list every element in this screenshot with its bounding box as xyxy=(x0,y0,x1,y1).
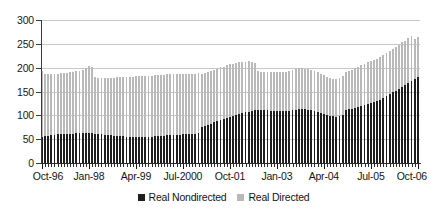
segment-real-nondirected xyxy=(245,112,247,163)
segment-real-directed xyxy=(241,62,243,113)
bar-May-06 xyxy=(401,42,403,163)
segment-real-nondirected xyxy=(166,135,168,163)
bar-May-01 xyxy=(213,70,215,163)
bar-Dec-97 xyxy=(85,68,87,163)
segment-real-nondirected xyxy=(379,100,381,163)
bar-Jan-98 xyxy=(88,66,90,163)
x-tick-Nov-05 xyxy=(383,164,384,167)
segment-real-nondirected xyxy=(342,115,344,163)
segment-real-directed xyxy=(263,72,265,110)
x-axis-label-Jul-2000: Jul-2000 xyxy=(164,170,203,182)
segment-real-nondirected xyxy=(376,101,378,163)
segment-real-directed xyxy=(69,72,71,133)
segment-real-nondirected xyxy=(216,121,218,163)
x-tick-Dec-97 xyxy=(86,164,87,167)
x-tick-Oct-97 xyxy=(80,164,81,167)
bar-May-03 xyxy=(288,71,290,163)
segment-real-nondirected xyxy=(248,112,250,163)
bar-Jul-03 xyxy=(295,69,297,163)
bar-Nov-99 xyxy=(157,75,159,163)
x-tick-Jul-01 xyxy=(220,164,221,167)
segment-real-nondirected xyxy=(389,94,391,163)
segment-real-directed xyxy=(216,69,218,121)
x-tick-Dec-02 xyxy=(274,164,275,167)
segment-real-directed xyxy=(395,47,397,91)
x-tick-May-03 xyxy=(289,164,290,167)
segment-real-nondirected xyxy=(382,98,384,163)
bar-Jan-04 xyxy=(314,71,316,163)
bar-May-97 xyxy=(63,73,65,163)
bar-Sep-02 xyxy=(263,72,265,163)
segment-real-nondirected xyxy=(82,133,84,163)
bar-Jan-01 xyxy=(201,74,203,163)
segment-real-nondirected xyxy=(226,118,228,163)
segment-real-nondirected xyxy=(185,134,187,163)
segment-real-directed xyxy=(141,76,143,137)
segment-real-nondirected xyxy=(279,111,281,163)
segment-real-directed xyxy=(182,74,184,134)
bar-Jul-04 xyxy=(332,79,334,163)
segment-real-nondirected xyxy=(270,111,272,163)
segment-real-nondirected xyxy=(69,134,71,163)
x-tick-Mar-04 xyxy=(321,164,322,167)
bar-Jun-06 xyxy=(404,41,406,163)
segment-real-nondirected xyxy=(417,77,419,163)
bar-Nov-96 xyxy=(44,74,46,163)
segment-real-directed xyxy=(54,74,56,135)
x-tick-Mar-97 xyxy=(58,164,59,167)
x-tick-May-97 xyxy=(64,164,65,167)
segment-real-nondirected xyxy=(176,135,178,163)
segment-real-nondirected xyxy=(273,111,275,163)
bar-Jan-99 xyxy=(126,77,128,163)
bar-Jul-01 xyxy=(220,67,222,163)
segment-real-directed xyxy=(176,74,178,135)
segment-real-directed xyxy=(323,75,325,114)
x-tick-Mar-03 xyxy=(283,164,284,167)
segment-real-directed xyxy=(329,78,331,116)
bar-Jun-01 xyxy=(216,69,218,163)
segment-real-directed xyxy=(88,66,90,134)
segment-real-nondirected xyxy=(79,133,81,163)
segment-real-nondirected xyxy=(254,110,256,163)
bar-Apr-04 xyxy=(323,75,325,163)
bars-layer xyxy=(41,20,420,163)
segment-real-directed xyxy=(407,38,409,83)
x-tick-Jan-02 xyxy=(239,164,240,167)
segment-real-directed xyxy=(44,74,46,136)
bar-Jan-2000 xyxy=(163,75,165,163)
bar-Jun-04 xyxy=(329,78,331,163)
bar-Apr-02 xyxy=(248,61,250,163)
bar-Sep-99 xyxy=(151,76,153,163)
y-tick-0 xyxy=(36,163,41,164)
segment-real-directed xyxy=(411,36,413,81)
segment-real-nondirected xyxy=(116,136,118,163)
bar-Apr-98 xyxy=(97,78,99,163)
bar-Sep-05 xyxy=(376,59,378,163)
x-tick-Sep-04 xyxy=(340,164,341,167)
x-tick-Dec-01 xyxy=(236,164,237,167)
x-tick-Aug-03 xyxy=(299,164,300,167)
segment-real-directed xyxy=(382,55,384,98)
x-axis-label-Oct-96: Oct-96 xyxy=(33,170,63,182)
bar-Sep-97 xyxy=(75,71,77,163)
segment-real-directed xyxy=(57,74,59,135)
segment-real-directed xyxy=(304,69,306,110)
x-tick-Feb-97 xyxy=(54,164,55,167)
segment-real-nondirected xyxy=(257,110,259,163)
bar-Sep-2000 xyxy=(188,74,190,163)
bar-Jul-06 xyxy=(407,38,409,163)
bar-Aug-06 xyxy=(411,36,413,163)
bar-Mar-97 xyxy=(57,74,59,163)
bar-Jan-03 xyxy=(276,72,278,163)
bar-Dec-99 xyxy=(160,75,162,163)
segment-real-nondirected xyxy=(395,91,397,163)
bar-Apr-05 xyxy=(360,65,362,163)
segment-real-directed xyxy=(204,73,206,126)
bar-Jul-2000 xyxy=(182,74,184,163)
segment-real-nondirected xyxy=(339,116,341,163)
x-tick-Aug-2000 xyxy=(186,164,187,167)
segment-real-directed xyxy=(119,77,121,136)
x-tick-Apr-04 xyxy=(324,164,325,169)
x-tick-Aug-05 xyxy=(374,164,375,167)
x-tick-Aug-06 xyxy=(412,164,413,167)
